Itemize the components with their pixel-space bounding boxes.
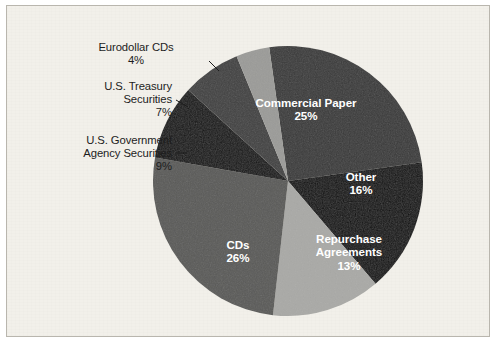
slice-label-eurodollar-cds-name: Eurodollar CDs xyxy=(98,41,173,53)
slice-label-other: Other 16% xyxy=(330,170,392,197)
slice-label-other-pct: 16% xyxy=(330,183,392,196)
slice-label-commercial-paper-pct: 25% xyxy=(240,109,372,122)
slice-label-cds: CDs 26% xyxy=(208,238,268,265)
slice-label-commercial-paper-name: Commercial Paper xyxy=(255,96,356,109)
pie-slice-cds[interactable] xyxy=(153,158,288,316)
slice-label-commercial-paper: Commercial Paper 25% xyxy=(240,96,372,123)
slice-label-us-government-agency-securities-pct: 9% xyxy=(18,160,172,173)
slice-label-us-treasury-securities-line2: Securities xyxy=(123,93,172,105)
slice-label-other-name: Other xyxy=(346,170,377,183)
slice-label-repurchase-agreements-line1: Repurchase xyxy=(316,232,382,245)
slice-label-repurchase-agreements: Repurchase Agreements 13% xyxy=(300,232,398,272)
slice-label-eurodollar-cds: Eurodollar CDs 4% xyxy=(60,41,212,67)
slice-label-us-government-agency-securities: U.S. Government Agency Securities 9% xyxy=(18,134,172,174)
slice-label-us-government-agency-securities-line2: Agency Securities xyxy=(83,147,172,159)
screenshot-root: Eurodollar CDs 4% U.S. Treasury Securiti… xyxy=(0,0,496,342)
slice-label-us-treasury-securities: U.S. Treasury Securities 7% xyxy=(52,80,172,120)
slice-label-repurchase-agreements-line2: Agreements xyxy=(316,245,383,258)
slice-label-us-treasury-securities-pct: 7% xyxy=(52,106,172,119)
slice-label-us-government-agency-securities-line1: U.S. Government xyxy=(86,134,172,146)
slice-label-cds-name: CDs xyxy=(226,238,249,251)
slice-label-cds-pct: 26% xyxy=(208,251,268,264)
slice-label-us-treasury-securities-line1: U.S. Treasury xyxy=(104,80,172,92)
slice-label-eurodollar-cds-pct: 4% xyxy=(60,54,212,67)
slice-label-repurchase-agreements-pct: 13% xyxy=(300,259,398,272)
